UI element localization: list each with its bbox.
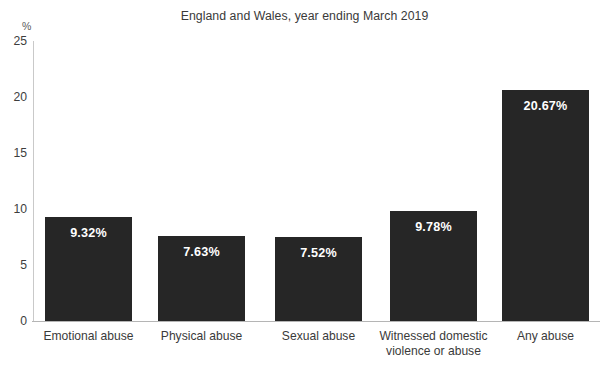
bar-value-label: 7.63% xyxy=(158,245,245,259)
y-axis-line xyxy=(33,41,34,322)
y-axis-tick-25: 25 xyxy=(0,35,27,47)
bar-chart: England and Wales, year ending March 201… xyxy=(0,0,609,366)
bar-value-label: 9.78% xyxy=(390,220,477,234)
bar-value-label: 9.32% xyxy=(45,226,132,240)
category-label-5: Any abuse xyxy=(480,329,609,344)
y-axis-tick-10: 10 xyxy=(0,203,27,215)
chart-title xyxy=(0,0,609,2)
y-axis-tick-5: 5 xyxy=(0,259,27,271)
category-label-2: Physical abuse xyxy=(136,329,267,344)
bar-1[interactable]: 9.32% xyxy=(45,217,132,321)
bar-3[interactable]: 7.52% xyxy=(275,237,362,321)
bar-value-label: 7.52% xyxy=(275,246,362,260)
x-axis-line xyxy=(32,321,600,322)
bar-5[interactable]: 20.67% xyxy=(502,90,589,322)
y-axis-tick-0: 0 xyxy=(0,315,27,327)
category-label-1: Emotional abuse xyxy=(23,329,154,344)
bar-value-label: 20.67% xyxy=(502,99,589,113)
y-axis-tick-20: 20 xyxy=(0,91,27,103)
bar-rect xyxy=(502,90,589,322)
chart-subtitle: England and Wales, year ending March 201… xyxy=(0,9,609,23)
plot-area: 9.32%7.63%7.52%9.78%20.67% xyxy=(0,0,609,366)
bar-2[interactable]: 7.63% xyxy=(158,236,245,321)
y-axis-unit-label: % xyxy=(22,20,31,32)
category-label-3: Sexual abuse xyxy=(253,329,384,344)
bar-4[interactable]: 9.78% xyxy=(390,211,477,321)
y-axis-tick-15: 15 xyxy=(0,147,27,159)
